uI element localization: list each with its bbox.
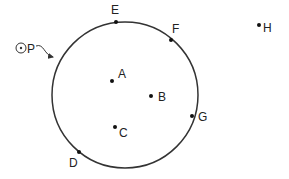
- points-group: ABCDEFGH: [69, 3, 272, 170]
- point-b-label: B: [158, 90, 166, 104]
- point-d-dot: [77, 150, 81, 154]
- point-h-label: H: [263, 21, 272, 35]
- circle-symbol-center: [20, 47, 22, 49]
- point-e-label: E: [111, 3, 119, 17]
- point-b-dot: [149, 94, 153, 98]
- circle-name-label: P: [27, 42, 35, 56]
- point-d-label: D: [69, 156, 78, 170]
- point-e-dot: [114, 20, 118, 24]
- point-g-label: G: [198, 110, 207, 124]
- circle-diagram: P ABCDEFGH: [0, 0, 289, 179]
- point-a-label: A: [118, 67, 126, 81]
- circle-p: [52, 22, 198, 168]
- point-h-dot: [257, 23, 261, 27]
- point-f-label: F: [172, 22, 179, 36]
- point-c-label: C: [119, 126, 128, 140]
- point-g-dot: [190, 114, 194, 118]
- point-c-dot: [113, 125, 117, 129]
- circle-label: P: [16, 42, 35, 56]
- point-a-dot: [110, 79, 114, 83]
- circle-pointer-arrow: [36, 46, 53, 57]
- point-f-dot: [169, 38, 173, 42]
